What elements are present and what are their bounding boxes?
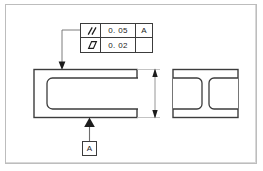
drawing-sheet: 0. 05 A 0. 02 A (0, 0, 263, 171)
side-view-pocket-right (209, 78, 238, 109)
flatness-symbol (81, 38, 101, 52)
flatness-datum-reference (136, 38, 152, 52)
datum-a-label[interactable]: A (82, 141, 97, 156)
datum-triangle-icon (84, 118, 95, 128)
parallelism-datum-reference: A (136, 24, 152, 37)
front-view (34, 70, 138, 118)
fcf-row-flatness[interactable]: 0. 02 (81, 38, 152, 52)
front-view-slot (47, 78, 138, 109)
side-view (173, 70, 238, 118)
fcf-row-parallelism[interactable]: 0. 05 A (81, 24, 152, 38)
side-view-pocket-left (173, 78, 202, 109)
flatness-tolerance-value: 0. 02 (101, 38, 136, 52)
parallelism-symbol (81, 24, 101, 37)
datum-feature-symbol (84, 118, 95, 142)
fcf-leader-line (59, 30, 80, 70)
parallelism-tolerance-value: 0. 05 (101, 24, 136, 37)
leader-arrowhead-icon (59, 62, 66, 71)
feature-control-frame[interactable]: 0. 05 A 0. 02 (80, 23, 153, 53)
height-dimension (137, 69, 160, 119)
